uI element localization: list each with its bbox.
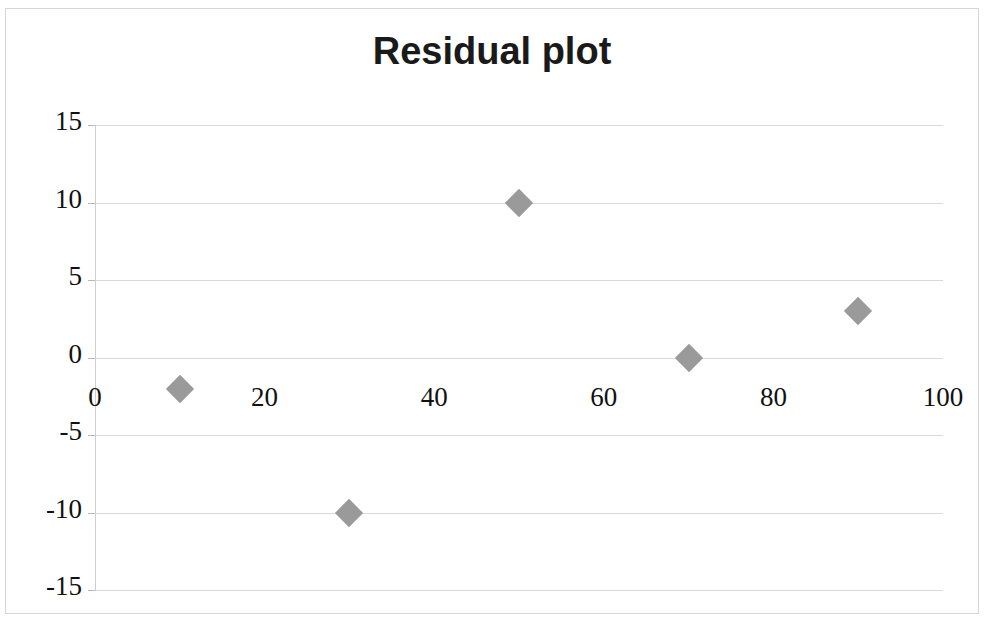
x-axis-tick-label: 100 [923,382,964,413]
x-axis-tick-label: 40 [421,382,448,413]
x-axis-tick-label: 0 [88,382,102,413]
x-axis-tick-labels: 020406080100 [0,0,984,619]
x-axis-tick-label: 80 [760,382,787,413]
x-axis-tick-label: 20 [251,382,278,413]
x-axis-tick-label: 60 [590,382,617,413]
chart-figure: Residual plot 151050-5-10-15 02040608010… [0,0,984,619]
